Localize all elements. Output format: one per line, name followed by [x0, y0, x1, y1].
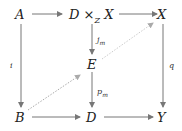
node-product: D ×Z X [69, 8, 113, 25]
dotted-arrow-e-to-x [102, 23, 153, 59]
node-d: D [86, 111, 96, 124]
label-pm: pm [97, 88, 108, 98]
node-product-main: D × [69, 7, 94, 22]
node-b: B [15, 111, 25, 124]
label-pm-sub: m [102, 91, 108, 98]
label-jm-sub: m [99, 39, 105, 46]
label-i: i [10, 62, 13, 70]
node-y: Y [157, 111, 166, 124]
node-x: X [157, 8, 166, 21]
node-product-tail: X [100, 7, 113, 22]
label-jm: jm [97, 36, 105, 46]
dotted-arrow-b-to-e [28, 75, 80, 110]
label-q: q [169, 62, 174, 70]
node-e: E [87, 58, 97, 71]
node-a: A [15, 8, 24, 21]
